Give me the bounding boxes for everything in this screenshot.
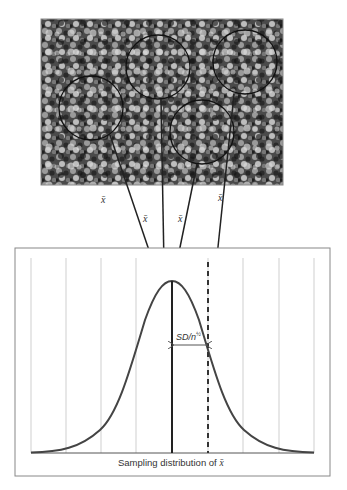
xbar-label: x̄ [177, 213, 183, 224]
distribution-panel: SD/n½ Sampling distribution of x̄ [15, 248, 330, 476]
arrow-labels: x̄ x̄ x̄ x̄ [100, 192, 223, 224]
xbar-label: x̄ [142, 213, 148, 224]
sampling-distribution-figure: x̄ x̄ x̄ x̄ SD/n½ Sampling distribution [0, 0, 347, 490]
xbar-label: x̄ [217, 192, 223, 203]
xbar-label: x̄ [100, 194, 106, 205]
distribution-caption: Sampling distribution of x̄ [118, 457, 224, 468]
